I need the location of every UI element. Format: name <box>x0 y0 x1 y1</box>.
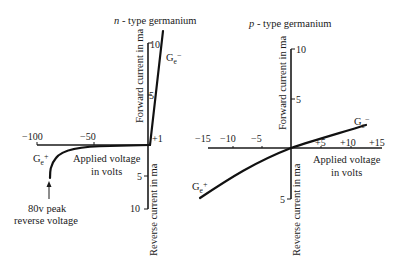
n-x-tick-plus1: +1 <box>152 133 163 144</box>
annotation-line2: reverse voltage <box>14 215 78 226</box>
annotation-line1: 80v peak <box>28 203 67 214</box>
p-x-tick-neg15: −15 <box>195 133 211 144</box>
n-x-label-line1: Applied voltage <box>73 153 141 164</box>
p-rev-tick-5: 5 <box>280 194 285 205</box>
n-ge-plus-label: Ge+ <box>33 152 49 167</box>
n-x-tick-neg50: −50 <box>80 131 96 142</box>
peak-arrow-head-icon <box>47 181 52 187</box>
p-x-tick-plus15: +15 <box>369 137 385 148</box>
n-x-label-line2: in volts <box>91 166 122 177</box>
p-fwd-tick-10: 10 <box>296 44 306 55</box>
p-type-chart: p - type germanium 10 5 5 −15 −10 −5 +5 … <box>192 18 385 256</box>
n-ge-minus-label: Ge− <box>166 51 182 66</box>
p-reverse-current-label: Reverse current in ma <box>291 163 302 256</box>
p-forward-current-label: Forward current in ma <box>277 35 288 130</box>
n-x-tick-neg100: −100 <box>22 131 43 142</box>
p-x-tick-neg10: −10 <box>220 133 236 144</box>
germanium-iv-diagram: n - type germanium 10 5 5 10 −100 −50 +1… <box>0 0 399 266</box>
p-x-tick-plus10: +10 <box>340 137 356 148</box>
p-fwd-tick-5: 5 <box>296 94 301 105</box>
n-fwd-tick-5: 5 <box>149 90 154 101</box>
p-x-tick-neg5: −5 <box>251 133 262 144</box>
n-forward-current-label: Forward current in ma <box>134 28 145 123</box>
n-rev-tick-5: 5 <box>137 171 142 182</box>
p-x-label-line1: Applied voltage <box>313 154 381 165</box>
p-ge-plus-label: Ge+ <box>192 180 208 195</box>
n-type-chart: n - type germanium 10 5 5 10 −100 −50 +1… <box>14 15 197 256</box>
p-x-label-line2: in volts <box>331 167 362 178</box>
n-type-title: n - type germanium <box>114 15 197 26</box>
p-type-title: p - type germanium <box>248 18 332 29</box>
n-reverse-current-label: Reverse current in ma <box>148 163 159 256</box>
n-rev-tick-10: 10 <box>130 203 140 214</box>
n-fwd-tick-10: 10 <box>150 39 160 50</box>
